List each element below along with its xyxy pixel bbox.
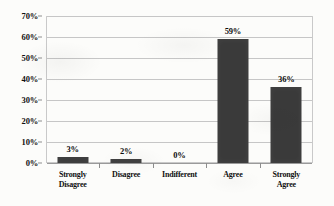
y-axis-tick-label: 0% <box>26 158 38 168</box>
y-axis-tick-mark <box>38 100 42 101</box>
x-axis-category-label: Disagree <box>112 170 140 180</box>
bar-value-label: 2% <box>120 146 132 156</box>
x-axis-tick-mark <box>206 163 207 168</box>
y-axis-tick-label: 40% <box>22 74 38 84</box>
y-axis-tick-label: 20% <box>22 116 38 126</box>
bar-value-label: 36% <box>278 74 294 84</box>
x-axis-tick-mark <box>99 163 100 168</box>
x-axis-category-label: Agree <box>223 170 242 180</box>
bar-slot: 2% <box>99 16 152 163</box>
x-axis: Strongly DisagreeDisagreeIndifferentAgre… <box>46 170 313 200</box>
y-axis-tick-mark <box>38 37 42 38</box>
bar-chart: 0%10%20%30%40%50%60%70% 3%2%0%59%36% Str… <box>0 0 334 206</box>
y-axis-tick-mark <box>38 16 42 17</box>
y-axis-tick-mark <box>38 121 42 122</box>
y-axis-tick-label: 30% <box>22 95 38 105</box>
y-axis-tick-label: 50% <box>22 53 38 63</box>
y-axis-tick-label: 60% <box>22 32 38 42</box>
x-axis-tick-mark <box>260 163 261 168</box>
y-axis-tick-mark <box>38 163 42 164</box>
bar-slot: 3% <box>46 16 99 163</box>
bar-slot: 59% <box>206 16 259 163</box>
x-axis-category-label: Indifferent <box>162 170 197 180</box>
bar-slot: 0% <box>153 16 206 163</box>
x-axis-tick-mark <box>153 163 154 168</box>
bars-layer: 3%2%0%59%36% <box>46 16 313 163</box>
y-axis: 0%10%20%30%40%50%60%70% <box>0 16 42 163</box>
bar-value-label: 59% <box>225 26 241 36</box>
x-axis-ticks <box>46 163 313 168</box>
bar <box>271 87 302 163</box>
y-axis-tick-mark <box>38 142 42 143</box>
bar-slot: 36% <box>260 16 313 163</box>
y-axis-tick-mark <box>38 58 42 59</box>
x-axis-category-label: Strongly Agree <box>273 170 301 190</box>
bar <box>217 39 248 163</box>
y-axis-tick-label: 10% <box>22 137 38 147</box>
bar-value-label: 3% <box>67 144 79 154</box>
y-axis-tick-label: 70% <box>22 11 38 21</box>
bar-value-label: 0% <box>173 150 185 160</box>
x-axis-category-label: Strongly Disagree <box>59 170 87 190</box>
y-axis-tick-mark <box>38 79 42 80</box>
